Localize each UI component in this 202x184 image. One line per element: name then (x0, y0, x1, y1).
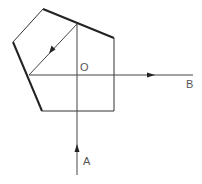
label-input-A: A (83, 156, 90, 167)
arrow-right-icon (147, 73, 155, 78)
label-output-B: B (186, 79, 193, 90)
arrow-down-left-icon (49, 46, 56, 54)
prism-edge-lower-left-reflector (13, 42, 42, 111)
ray-arrows (49, 46, 155, 153)
label-center-O: O (80, 62, 89, 73)
prism-edge-upper-left (13, 9, 43, 42)
light-rays (29, 24, 193, 175)
arrow-up-icon (75, 144, 80, 152)
prism-outline (13, 9, 114, 111)
prism-edge-top-reflector (43, 9, 114, 38)
pentaprism-diagram (0, 0, 202, 184)
reflecting-surfaces (13, 9, 114, 111)
